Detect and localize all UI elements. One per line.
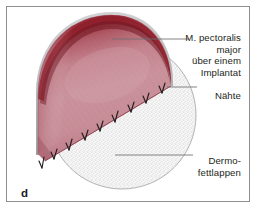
- label-naehte: Nähte: [171, 90, 241, 102]
- label-muscle-line-4: Implantat: [151, 67, 241, 79]
- suture-stitch: [39, 157, 44, 168]
- label-dermo-fettlappen: Dermo- fettlappen: [161, 155, 241, 178]
- figure-panel: M. pectoralis major über einem Implantat…: [0, 0, 257, 216]
- label-muscle-line-1: M. pectoralis: [151, 32, 241, 44]
- label-muscle-line-2: major: [151, 44, 241, 56]
- label-fatflap-line-1: Dermo-: [161, 155, 241, 167]
- label-m-pectoralis-major: M. pectoralis major über einem Implantat: [151, 32, 241, 78]
- label-muscle-line-3: über einem: [151, 55, 241, 67]
- figure-frame-border: M. pectoralis major über einem Implantat…: [6, 6, 250, 202]
- label-fatflap-line-2: fettlappen: [161, 167, 241, 179]
- panel-letter: d: [21, 187, 28, 199]
- label-sutures-line-1: Nähte: [171, 90, 241, 102]
